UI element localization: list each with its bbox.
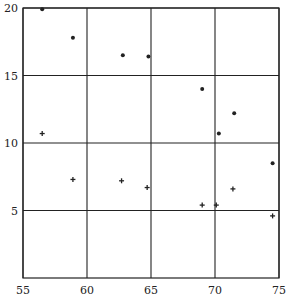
y-axis-tick-labels: 5101520 (4, 2, 18, 218)
x-axis-tick-labels: 5560657075 (16, 284, 286, 297)
x-tick-label: 75 (272, 284, 286, 297)
y-tick-label: 15 (4, 70, 18, 83)
plus-marker-icon (200, 203, 205, 208)
y-tick-label: 20 (4, 2, 18, 15)
dot-marker-icon (271, 161, 275, 165)
plus-marker-icon (230, 186, 235, 191)
x-tick-label: 70 (208, 284, 222, 297)
x-tick-label: 55 (16, 284, 30, 297)
data-points (40, 7, 275, 218)
plus-marker-icon (70, 177, 75, 182)
x-tick-label: 60 (80, 284, 94, 297)
y-tick-label: 10 (4, 137, 18, 150)
dot-marker-icon (121, 53, 125, 57)
dot-marker-icon (146, 55, 150, 59)
grid-lines (23, 8, 279, 278)
plus-marker-icon (119, 178, 124, 183)
dot-marker-icon (40, 7, 44, 11)
dot-marker-icon (200, 87, 204, 91)
dot-marker-icon (71, 36, 75, 40)
plus-marker-icon (40, 131, 45, 136)
dot-marker-icon (232, 111, 236, 115)
scatter-chart: 5560657075 5101520 (0, 0, 286, 299)
dot-marker-icon (217, 132, 221, 136)
y-tick-label: 5 (11, 205, 18, 218)
plus-marker-icon (145, 185, 150, 190)
plus-marker-icon (270, 213, 275, 218)
x-tick-label: 65 (144, 284, 158, 297)
